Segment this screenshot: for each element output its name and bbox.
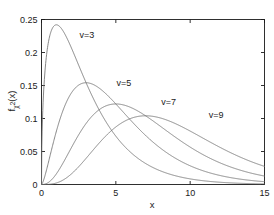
- curve-annotations: v=3v=5v=7v=9: [79, 30, 223, 120]
- y-tick-label: 0.25: [20, 15, 38, 25]
- x-tick-label: 10: [185, 188, 195, 198]
- curve-v=3: [42, 25, 265, 185]
- data-curves: [42, 25, 265, 185]
- x-tick-label: 15: [259, 188, 269, 198]
- y-tick-label: 0.1: [25, 114, 38, 124]
- y-tick-label: 0.05: [20, 147, 38, 157]
- curve-v=9: [42, 116, 265, 185]
- y-axis-title-arg: (x): [6, 91, 17, 102]
- x-axis-tick-labels: 051015: [39, 188, 270, 198]
- x-tick-label: 0: [39, 188, 44, 198]
- x-tick-label: 5: [113, 188, 118, 198]
- x-axis-title: x: [150, 199, 155, 210]
- y-axis-title: fχ2(x): [6, 91, 20, 112]
- chart-figure: 00.050.10.150.20.25 051015 v=3v=5v=7v=9 …: [0, 0, 274, 215]
- annotation-v=9: v=9: [209, 110, 224, 120]
- y-axis-tick-labels: 00.050.10.150.20.25: [20, 15, 38, 190]
- y-tick-label: 0: [32, 180, 37, 190]
- curve-v=5: [42, 83, 265, 185]
- annotation-v=3: v=3: [79, 30, 94, 40]
- axes-frame: [42, 20, 265, 185]
- annotation-v=5: v=5: [117, 78, 132, 88]
- axis-tick-marks: [42, 20, 265, 185]
- svg-text:fχ2(x): fχ2(x): [6, 91, 20, 112]
- y-tick-label: 0.2: [25, 48, 38, 58]
- chi-squared-pdf-plot: 00.050.10.150.20.25 051015 v=3v=5v=7v=9 …: [0, 0, 274, 215]
- y-tick-label: 0.15: [20, 81, 38, 91]
- annotation-v=7: v=7: [161, 97, 176, 107]
